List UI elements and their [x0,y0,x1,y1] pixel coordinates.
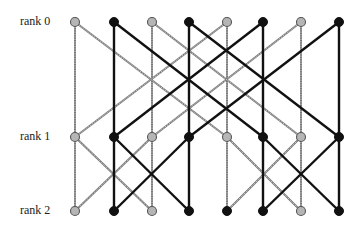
node-rank0-7 [335,18,344,27]
node-rank1-4 [223,133,232,142]
node-rank2-4 [223,207,232,216]
node-rank1-3 [185,133,194,142]
butterfly-diagram: rank 0 rank 1 rank 2 [0,0,361,231]
node-rank1-7 [335,133,344,142]
node-rank0-4 [223,18,232,27]
node-rank2-5 [259,207,268,216]
edges-layer [75,22,339,211]
node-rank0-3 [185,18,194,27]
node-rank2-6 [297,207,306,216]
nodes-layer [71,18,344,216]
node-rank2-7 [335,207,344,216]
node-rank2-1 [110,207,119,216]
node-rank2-3 [185,207,194,216]
node-rank1-6 [297,133,306,142]
node-rank0-5 [259,18,268,27]
node-rank1-0 [71,133,80,142]
node-rank1-1 [110,133,119,142]
node-rank0-2 [148,18,157,27]
node-rank0-6 [297,18,306,27]
node-rank0-1 [110,18,119,27]
node-rank0-0 [71,18,80,27]
node-rank1-5 [259,133,268,142]
node-rank1-2 [148,133,157,142]
node-rank2-2 [148,207,157,216]
node-rank2-0 [71,207,80,216]
network-graph [0,0,361,231]
